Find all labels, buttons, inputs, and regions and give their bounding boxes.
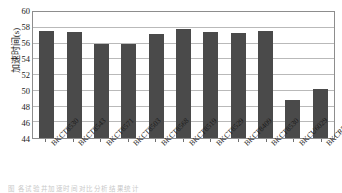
x-axis-tick-label: BKCR5070 (325, 142, 331, 148)
x-axis-tick-label: BKCT8571 (105, 142, 111, 148)
y-axis-tick-label: 56 (12, 39, 30, 48)
x-axis-tick-label: BKCT8519 (188, 142, 194, 148)
y-axis-tick-label: 60 (12, 7, 30, 16)
y-axis-tick-labels: 444648505254565860 (12, 11, 30, 139)
x-axis-tick-label: BKCT8529 (215, 142, 221, 148)
y-axis-tick-label: 58 (12, 23, 30, 32)
y-axis-tick-label: 48 (12, 103, 30, 112)
bar (39, 31, 54, 138)
y-axis-tick-label: 44 (12, 135, 30, 144)
x-axis-tick-label: BKCU6029 (298, 142, 304, 148)
y-axis-tick-label: 50 (12, 87, 30, 96)
y-axis-tick-label: 54 (12, 55, 30, 64)
x-axis-tick-label: BKCT8409 (243, 142, 249, 148)
figure-caption: 图 各试验井加速时间对比分析结果统计 (8, 185, 334, 193)
x-axis-tick-label: BKCT8503 (132, 142, 138, 148)
y-axis-tick-label: 52 (12, 71, 30, 80)
x-axis-tick-label: BKCT8568 (160, 142, 166, 148)
y-axis-tick-label: 46 (12, 119, 30, 128)
x-axis-tick-label: BKCT8530 (50, 142, 56, 148)
bar-chart-figure: 加速时间(s) 444648505254565860 BKCT8530BKCT8… (0, 0, 342, 193)
x-axis-tick-label: BKCT8543 (77, 142, 83, 148)
x-axis-tick-labels: BKCT8530BKCT8543BKCT8571BKCT8503BKCT8568… (32, 142, 335, 186)
x-axis-tick-label: BKCT8530 (270, 142, 276, 148)
